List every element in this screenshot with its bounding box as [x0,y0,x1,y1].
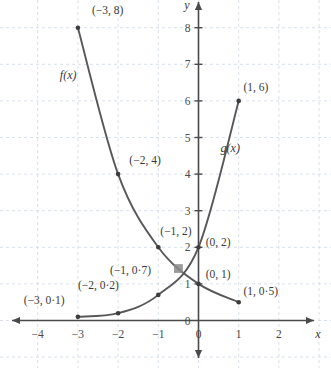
y-tick-label: 0 [185,315,191,327]
x-tick-label: 2 [276,328,282,340]
data-point [76,25,81,30]
point-label: (0, 1) [206,268,231,281]
y-axis-label: y [183,0,190,12]
graph-figure: −4−3−2−1012 012345678 x y (−3, 8)(−2, 4)… [0,0,331,368]
y-tick-label: 2 [185,241,191,253]
point-label: (−1, 2) [160,225,192,238]
y-tick-label: 3 [185,205,191,217]
y-tick-label: 4 [185,168,191,180]
data-point [156,293,161,298]
x-tick-label: −2 [112,328,124,340]
data-point [236,300,241,305]
y-tick-label: 7 [185,58,191,70]
data-point [196,282,201,287]
point-label: (−2, 0·2) [78,279,119,292]
y-tick-label: 6 [185,95,191,107]
y-tick-label: 8 [185,22,191,34]
point-label: (−3, 8) [92,4,124,17]
point-label: (1, 6) [244,81,269,94]
curve-label-g: g(x) [221,141,240,155]
x-tick-label: −1 [152,328,164,340]
point-label: (1, 0·5) [244,285,279,298]
y-tick-label: 1 [185,278,191,290]
point-label: (−1, 0·7) [110,264,151,277]
curve-label-f: f(x) [60,68,77,82]
data-point [196,245,201,250]
chart-background [0,0,331,368]
exponential-functions-graph: −4−3−2−1012 012345678 x y (−3, 8)(−2, 4)… [0,0,331,368]
intersection-marker [174,264,183,273]
data-point [116,311,121,316]
point-label: (0, 2) [206,236,231,249]
data-point [116,172,121,177]
data-point [156,245,161,250]
data-point [236,99,241,104]
data-point [76,315,81,320]
x-tick-label: −4 [32,328,44,340]
point-label: (−3, 0·1) [24,294,65,307]
x-tick-label: 0 [196,328,202,340]
x-tick-label: −3 [72,328,84,340]
point-label: (−2, 4) [129,154,161,167]
y-tick-label: 5 [185,132,191,144]
x-axis-label: x [314,327,321,341]
x-tick-label: 1 [236,328,242,340]
